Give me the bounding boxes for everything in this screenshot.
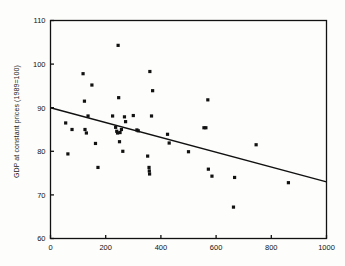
data-point: [146, 154, 149, 157]
data-point: [151, 89, 154, 92]
data-point: [111, 114, 114, 117]
y-tick-label: 60: [37, 234, 45, 243]
data-point: [83, 128, 86, 131]
x-tick-label: 0: [48, 243, 52, 252]
x-tick-label: 800: [265, 243, 278, 252]
x-tick-label: 400: [155, 243, 168, 252]
plot-canvas: 6070809010011002004006008001000: [0, 0, 345, 266]
data-point: [83, 100, 86, 103]
data-point: [148, 172, 151, 175]
data-point: [81, 72, 84, 75]
data-point: [114, 126, 117, 129]
data-point: [207, 168, 210, 171]
data-point: [147, 166, 150, 169]
data-point: [121, 150, 124, 153]
data-point: [90, 83, 93, 86]
plot-frame: [51, 21, 327, 239]
data-point: [137, 129, 140, 132]
data-point: [187, 150, 190, 153]
data-point: [85, 131, 88, 134]
data-point: [255, 143, 258, 146]
data-point: [150, 114, 153, 117]
x-tick-label: 200: [99, 243, 112, 252]
data-point: [124, 120, 127, 123]
data-point: [287, 181, 290, 184]
data-point: [168, 141, 171, 144]
y-tick-label: 70: [37, 191, 45, 200]
data-point: [123, 115, 126, 118]
data-point: [118, 140, 121, 143]
y-tick-label: 110: [34, 16, 46, 25]
data-point: [66, 152, 69, 155]
data-point: [70, 128, 73, 131]
x-tick-label: 600: [210, 243, 223, 252]
data-point: [94, 142, 97, 145]
data-point: [64, 121, 67, 124]
y-tick-label: 80: [37, 147, 45, 156]
data-point: [166, 133, 169, 136]
data-point: [233, 176, 236, 179]
data-point: [204, 126, 207, 129]
data-point: [117, 96, 120, 99]
trend-line: [51, 108, 327, 182]
data-point: [86, 114, 89, 117]
data-point: [96, 166, 99, 169]
data-point: [210, 175, 213, 178]
y-tick-label: 90: [37, 104, 45, 113]
y-tick-label: 100: [33, 60, 46, 69]
scatter-chart-figure: GDP at constant prices (1989=100) 607080…: [0, 0, 345, 266]
data-point: [148, 169, 151, 172]
data-point: [120, 128, 123, 131]
data-point: [148, 70, 151, 73]
data-point: [118, 131, 121, 134]
data-point: [232, 206, 235, 209]
x-tick-label: 1000: [318, 243, 335, 252]
data-point: [132, 114, 135, 117]
data-point: [117, 44, 120, 47]
data-point: [206, 98, 209, 101]
